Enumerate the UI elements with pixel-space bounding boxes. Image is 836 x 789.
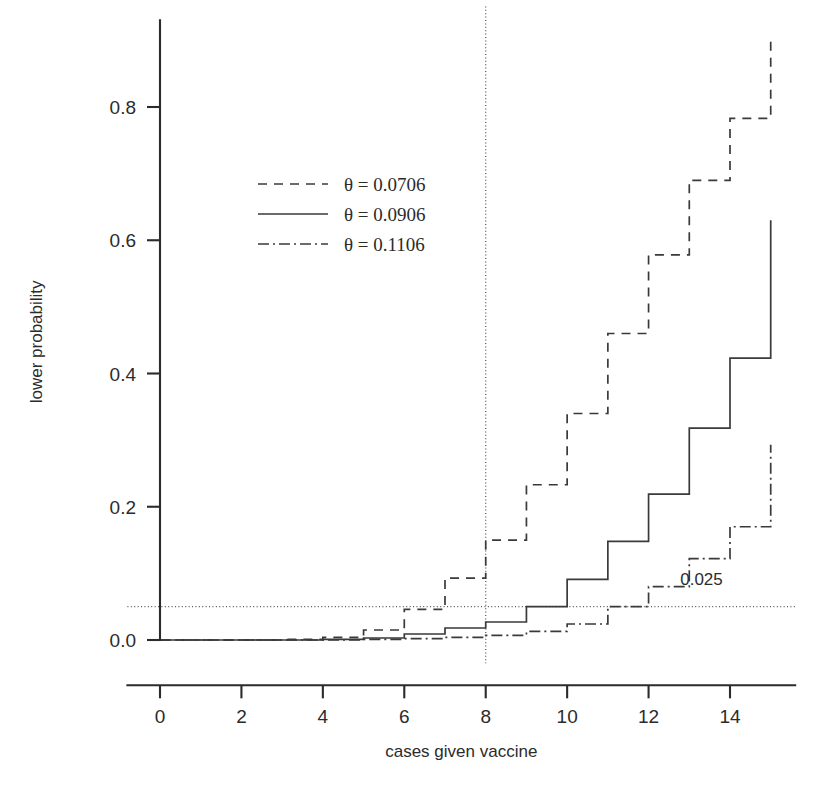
x-axis-title: cases given vaccine <box>385 742 537 761</box>
legend-label-theta-0.1106: θ = 0.1106 <box>344 234 425 255</box>
legend-label-theta-0.0706: θ = 0.0706 <box>344 174 426 195</box>
y-axis-title: lower probability <box>27 280 46 403</box>
lower-probability-step-chart: 0.00.20.40.60.8 02468101214 cases given … <box>0 0 836 789</box>
alpha-annotation: 0.025 <box>680 570 723 589</box>
y-tick-label-0.2: 0.2 <box>110 497 136 518</box>
chart-figure: 0.00.20.40.60.8 02468101214 cases given … <box>0 0 836 789</box>
y-tick-label-0.4: 0.4 <box>110 364 137 385</box>
x-tick-label-6: 6 <box>399 706 410 727</box>
annotations-group: 0.025 <box>680 570 723 589</box>
x-tick-label-0: 0 <box>155 706 166 727</box>
x-tick-label-12: 12 <box>638 706 659 727</box>
x-tick-label-10: 10 <box>557 706 578 727</box>
chart-background <box>0 0 836 789</box>
y-tick-label-0.8: 0.8 <box>110 97 136 118</box>
x-tick-label-4: 4 <box>318 706 329 727</box>
x-tick-label-14: 14 <box>719 706 741 727</box>
x-tick-label-8: 8 <box>480 706 491 727</box>
y-tick-label-0.0: 0.0 <box>110 630 136 651</box>
legend-label-theta-0.0906: θ = 0.0906 <box>344 204 426 225</box>
x-tick-label-2: 2 <box>236 706 247 727</box>
y-tick-label-0.6: 0.6 <box>110 230 136 251</box>
